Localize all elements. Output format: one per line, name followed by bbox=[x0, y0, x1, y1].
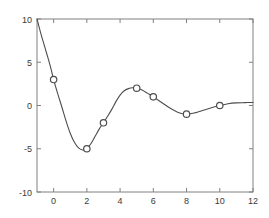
x-tick-label-4: 4 bbox=[118, 196, 123, 206]
data-point-marker bbox=[100, 120, 106, 126]
y-tick-label-5: 5 bbox=[27, 58, 32, 68]
data-point-marker bbox=[150, 94, 156, 100]
data-point-marker bbox=[84, 146, 90, 152]
x-tick-label-0: 0 bbox=[51, 196, 56, 206]
x-tick-label-12: 12 bbox=[248, 196, 258, 206]
x-tick-label-8: 8 bbox=[184, 196, 189, 206]
y-tick-label-0: 0 bbox=[27, 101, 32, 111]
y-tick-label--10: -10 bbox=[19, 188, 32, 198]
y-tick-label-10: 10 bbox=[22, 15, 32, 25]
figure-canvas: 024681012 -10-50510 bbox=[0, 0, 269, 218]
x-tick-label-2: 2 bbox=[84, 196, 89, 206]
x-tick-label-6: 6 bbox=[151, 196, 156, 206]
data-point-marker bbox=[183, 111, 189, 117]
x-tick-label-10: 10 bbox=[215, 196, 225, 206]
y-tick-label--5: -5 bbox=[24, 144, 32, 154]
data-point-marker bbox=[50, 76, 56, 82]
data-point-marker bbox=[217, 102, 223, 108]
data-point-marker bbox=[133, 85, 139, 91]
chart-plot: 024681012 -10-50510 bbox=[0, 0, 269, 218]
